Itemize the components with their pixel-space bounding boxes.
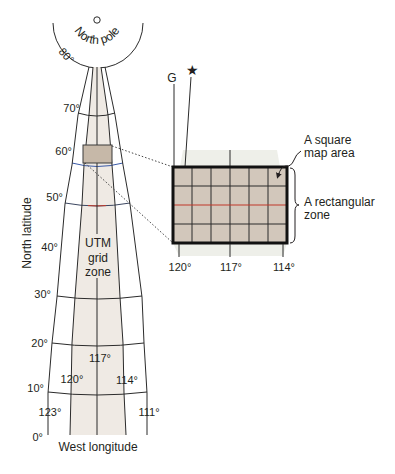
utm-grid-zone-label: UTM grid zone	[84, 234, 112, 279]
north-pole-label: North pole	[72, 24, 123, 47]
latitude-label-60: 60°	[55, 145, 72, 157]
longitude-label-111: 111°	[138, 406, 159, 418]
north-pole-cap: North pole 80°	[53, 17, 143, 68]
zone-label-line2: grid	[88, 251, 108, 265]
latitude-label-20: 20°	[31, 337, 48, 349]
latitude-label-80: 80°	[57, 45, 77, 65]
longitude-label-120: 120°	[61, 373, 84, 385]
zone-annotation-line1: A rectangular	[304, 195, 375, 209]
latitude-label-40: 40°	[41, 241, 58, 253]
y-axis-label: North latitude	[20, 197, 34, 269]
latitude-label-0: 0°	[32, 431, 43, 443]
utm-grid-zone-diagram: North pole 80° 70° 60° 50° 40° 30° 20° 1…	[0, 0, 395, 474]
square-annotation-line1: A square	[304, 133, 352, 147]
true-north-star-icon: ★	[186, 62, 199, 78]
latitude-label-30: 30°	[34, 288, 51, 300]
x-axis-label: West longitude	[58, 440, 137, 454]
small-map-area	[83, 145, 112, 163]
longitude-label-123: 123°	[39, 406, 62, 418]
longitude-label-117: 117°	[89, 352, 111, 364]
square-annotation-line2: map area	[304, 146, 355, 160]
zone-brace	[290, 168, 299, 243]
inset-label-120: 120°	[169, 261, 192, 273]
latitude-label-50: 50°	[46, 191, 63, 203]
north-pole-label-path: North pole	[72, 24, 123, 47]
grid-north-label: G	[167, 71, 176, 85]
zone-label-line1: UTM	[85, 236, 111, 250]
north-pole-marker	[94, 17, 100, 23]
inset-label-114: 114°	[273, 261, 295, 273]
latitude-label-70: 70°	[63, 102, 80, 114]
latitude-label-10: 10°	[27, 382, 44, 394]
zone-annotation-line2: zone	[304, 208, 330, 222]
inset-label-117: 117°	[220, 261, 242, 273]
zone-label-line3: zone	[85, 265, 111, 279]
longitude-label-114: 114°	[116, 374, 138, 386]
inset-map-area: G ★ 120° 117° 114° A square map area	[167, 62, 374, 273]
